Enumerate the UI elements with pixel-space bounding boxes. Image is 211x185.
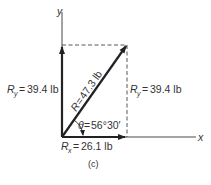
svg-text:=: = — [19, 83, 25, 95]
svg-text:x: x — [67, 147, 72, 154]
y-axis-label: y — [56, 5, 63, 17]
figure-caption: (c) — [88, 159, 99, 169]
resultant-label: R = 47.3 lb — [68, 68, 105, 113]
rx-label: R x = 26.1 lb — [61, 140, 113, 154]
svg-text:y: y — [13, 90, 18, 98]
vector-diagram: y x R = 47.3 lb θ = 56°30′ R y — [0, 0, 211, 185]
angle-label: θ = 56°30′ — [78, 119, 121, 131]
ry-right-label: R y = 39.4 lb — [130, 83, 182, 98]
svg-text:=: = — [73, 140, 79, 152]
ry-left-label: R y = 39.4 lb — [7, 83, 59, 98]
svg-text:56°30′: 56°30′ — [91, 119, 121, 131]
svg-text:39.4 lb: 39.4 lb — [27, 83, 59, 95]
svg-text:26.1 lb: 26.1 lb — [81, 140, 113, 152]
svg-text:39.4 lb: 39.4 lb — [150, 83, 182, 95]
x-axis-label: x — [197, 131, 204, 143]
svg-text:=: = — [84, 119, 90, 131]
svg-text:=: = — [142, 83, 148, 95]
svg-text:y: y — [136, 90, 141, 98]
